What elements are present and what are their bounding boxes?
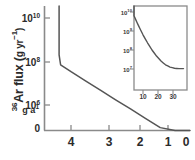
inset-axes [130, 6, 187, 94]
figure-container: 36Ar flux (g yr−1) g a1 1010 108 106 0 4… [0, 0, 195, 160]
plot-svg [0, 0, 195, 160]
inset-frame [134, 6, 187, 90]
